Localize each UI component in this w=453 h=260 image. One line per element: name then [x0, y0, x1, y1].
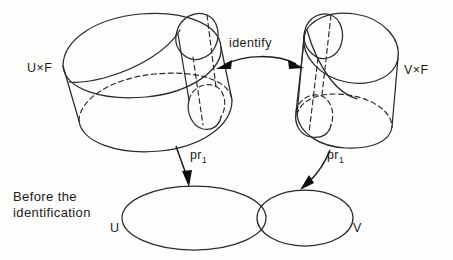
left-cylinder-label: U×F — [27, 61, 52, 75]
right-subcylinder-bottom-back-arc — [296, 95, 333, 125]
left-subcylinder-bottom-front-arc — [188, 100, 221, 129]
figure-caption-line1: Before the — [13, 189, 77, 204]
left-cylinder-bottom-back-arc — [79, 73, 232, 121]
projection-left-label-sub: 1 — [202, 155, 207, 165]
identify-arrow-icon — [216, 57, 304, 69]
projection-right-label-sub: 1 — [339, 155, 344, 165]
figure-caption: Before theidentification — [13, 189, 91, 220]
right-cylinder-bottom-front-arc — [297, 115, 392, 148]
left-cylinder-left-wall — [63, 66, 79, 121]
identify-arrow-shaft — [224, 57, 296, 65]
projection-arrow-right-head — [300, 175, 314, 190]
left-cylinder-bottom-front-arc — [79, 100, 232, 152]
right-cylinder-group — [296, 13, 399, 148]
projection-right-label-base: pr — [327, 148, 339, 162]
projection-arrow-left-head — [182, 170, 192, 187]
left-cylinder-right-wall — [221, 47, 232, 100]
set-v-label: V — [353, 221, 362, 235]
projection-right-label: pr1 — [327, 148, 344, 165]
projection-arrow-right-icon — [300, 150, 330, 190]
projection-left-label-base: pr — [190, 148, 202, 162]
right-subcylinder-top-circle — [304, 14, 343, 59]
left-cylinder-intersection-curve — [69, 30, 180, 82]
set-u-ellipse — [122, 186, 266, 250]
right-subcylinder-left-generator — [296, 32, 305, 112]
figure-caption-line2: identification — [13, 205, 91, 221]
right-cylinder-label: V×F — [404, 63, 428, 77]
right-subcylinder-bottom-front-arc — [296, 112, 331, 137]
diagram-canvas — [0, 0, 453, 260]
right-cylinder-top-ellipse — [304, 13, 399, 83]
math-diagram-before-identification: U×F V×F identify pr1 pr1 U V Before thei… — [0, 0, 453, 260]
identify-label: identify — [229, 36, 272, 50]
right-subcylinder-right-generator — [322, 15, 331, 95]
left-subcylinder-right-generator — [207, 15, 216, 87]
left-subcylinder-bottom-back-arc — [189, 85, 225, 117]
projection-left-label: pr1 — [190, 148, 207, 165]
set-u-label: U — [110, 221, 119, 235]
set-v-ellipse — [257, 190, 353, 246]
right-cylinder-right-wall — [392, 58, 398, 127]
left-cylinder-group — [63, 13, 232, 151]
venn-diagram-group — [122, 186, 353, 250]
